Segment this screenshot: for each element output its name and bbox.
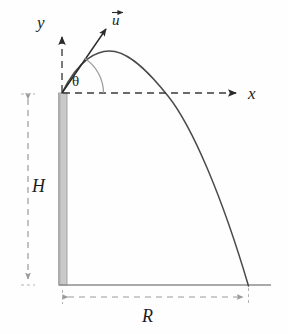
- velocity-arrow: [62, 29, 106, 93]
- angle-label: θ: [72, 73, 79, 89]
- diagram-canvas: x y u θ H: [0, 0, 288, 334]
- x-axis-label: x: [247, 84, 256, 103]
- height-dimension-label: H: [31, 176, 46, 196]
- y-axis: y: [35, 13, 62, 92]
- tower-shading: [59, 93, 61, 285]
- range-dimension-label: R: [141, 306, 153, 326]
- y-axis-label: y: [35, 13, 45, 32]
- projectile-path: [62, 51, 249, 286]
- velocity-vector-label: u: [112, 12, 120, 28]
- launch-tower: [59, 93, 68, 285]
- height-dimension: H: [21, 94, 46, 285]
- projectile-diagram: x y u θ H: [0, 0, 288, 334]
- angle-arc: [85, 58, 104, 93]
- range-dimension: R: [63, 288, 249, 326]
